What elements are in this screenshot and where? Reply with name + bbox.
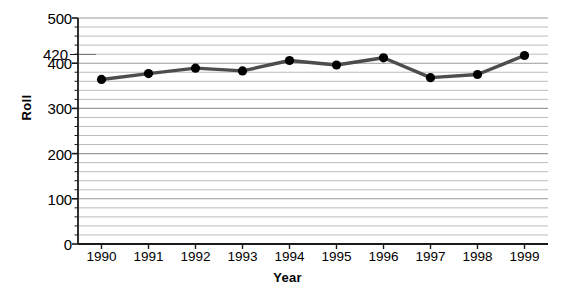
x-axis-tick-label: 1999 [495,250,555,264]
data-series-roll [78,18,548,244]
y-axis-annotation-label: 420 [16,47,68,62]
figure-caption [60,292,480,300]
y-axis-tick-label: 500 [26,11,72,26]
y-axis-tick-label: 200 [26,146,72,161]
line-chart-figure: 0100200300400500 420 Roll 19901991199219… [0,0,575,307]
y-axis-tick-label: 100 [26,191,72,206]
plot-area [78,18,548,244]
x-axis-title: Year [0,270,575,285]
y-axis-title: Roll [19,95,34,121]
y-axis-tick-label: 0 [26,237,72,252]
